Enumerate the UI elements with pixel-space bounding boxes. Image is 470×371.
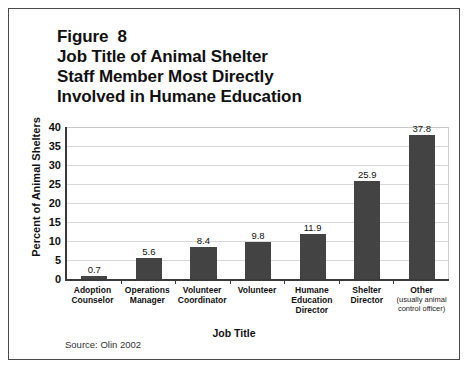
category-label: ShelterDirector xyxy=(339,285,394,315)
bar xyxy=(245,242,271,279)
bar-value-label: 0.7 xyxy=(67,265,122,275)
bar-value-label: 9.8 xyxy=(231,231,286,241)
category-label: OperationsManager xyxy=(120,285,175,315)
bar-slot: 37.8 xyxy=(394,127,449,279)
x-axis-tick xyxy=(339,280,340,284)
bar-series: 0.75.68.49.811.925.937.8 xyxy=(67,127,449,279)
title-line-1: Figure 8 xyxy=(57,27,447,47)
bar xyxy=(136,258,162,279)
y-tick-label: 5 xyxy=(55,255,61,265)
bar-value-label: 11.9 xyxy=(285,223,340,233)
category-label: VolunteerCoordinator xyxy=(175,285,230,315)
x-axis-tick xyxy=(175,280,176,284)
x-axis-categories: AdoptionCounselorOperationsManagerVolunt… xyxy=(65,285,449,315)
x-axis-tick xyxy=(284,280,285,284)
y-tick-label: 10 xyxy=(49,236,61,246)
category-label: AdoptionCounselor xyxy=(65,285,120,315)
y-axis-ticks: 4035302520151050 xyxy=(35,127,61,279)
y-tick-label: 35 xyxy=(49,141,61,151)
title-line-2: Job Title of Animal Shelter xyxy=(57,47,447,67)
bar-value-label: 5.6 xyxy=(122,247,177,257)
bar-slot: 5.6 xyxy=(122,127,177,279)
title-line-3: Staff Member Most Directly xyxy=(57,67,447,87)
bar xyxy=(81,276,107,279)
y-tick-label: 40 xyxy=(49,122,61,132)
bar-slot: 25.9 xyxy=(340,127,395,279)
bar-value-label: 37.8 xyxy=(394,124,449,134)
category-sublabel: (usually animal control officer) xyxy=(395,295,448,313)
bar-slot: 0.7 xyxy=(67,127,122,279)
bar-slot: 11.9 xyxy=(285,127,340,279)
bar xyxy=(190,247,216,279)
x-axis-tick xyxy=(121,280,122,284)
plot-area: 0.75.68.49.811.925.937.8 xyxy=(65,127,449,281)
bar-value-label: 25.9 xyxy=(340,170,395,180)
x-axis-tick xyxy=(230,280,231,284)
y-tick-label: 20 xyxy=(49,198,61,208)
y-tick-label: 15 xyxy=(49,217,61,227)
bar xyxy=(300,234,326,279)
y-tick-label: 30 xyxy=(49,160,61,170)
bar-value-label: 8.4 xyxy=(176,236,231,246)
bar xyxy=(409,135,435,279)
bar-slot: 9.8 xyxy=(231,127,286,279)
title-line-4: Involved in Humane Education xyxy=(57,87,447,107)
bar-slot: 8.4 xyxy=(176,127,231,279)
category-label: HumaneEducationDirector xyxy=(284,285,339,315)
bar xyxy=(354,181,380,279)
y-tick-label: 0 xyxy=(55,274,61,284)
bar-chart: Percent of Animal Shelters 4035302520151… xyxy=(9,119,461,299)
figure-title: Figure 8 Job Title of Animal Shelter Sta… xyxy=(57,27,447,107)
x-axis-label: Job Title xyxy=(9,327,459,339)
category-label: Other(usually animal control officer) xyxy=(394,285,449,315)
category-label: Volunteer xyxy=(230,285,285,315)
y-tick-label: 25 xyxy=(49,179,61,189)
x-axis-tick xyxy=(393,280,394,284)
figure-frame: Figure 8 Job Title of Animal Shelter Sta… xyxy=(8,8,460,360)
source-note: Source: Olin 2002 xyxy=(65,339,141,350)
